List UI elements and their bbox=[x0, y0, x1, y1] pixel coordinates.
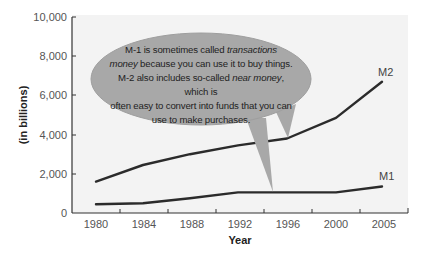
annotation-text-span: M-2 also includes so-called bbox=[118, 72, 232, 83]
x-axis: 1980 1984 1988 1992 1996 2000 2005 Year bbox=[72, 208, 408, 246]
x-tick-label: 1984 bbox=[132, 218, 156, 230]
y-axis: 0 2,000 4,000 6,000 8,000 10,000 (in bil… bbox=[17, 11, 76, 219]
x-tick-label: 1992 bbox=[228, 218, 252, 230]
annotation-text-span: because you can use it to buy things. bbox=[138, 58, 293, 69]
annotation-text: M-1 is sometimes called transactions mon… bbox=[106, 43, 296, 127]
x-tick-label: 2005 bbox=[372, 218, 396, 230]
y-tick-label: 0 bbox=[61, 207, 67, 219]
y-tick-label: 8,000 bbox=[39, 50, 67, 62]
annotation-term-transactions: transactions bbox=[227, 44, 277, 55]
x-tick-label: 1996 bbox=[276, 218, 300, 230]
series-label-m1: M1 bbox=[379, 170, 394, 182]
x-tick-label: 1980 bbox=[84, 218, 108, 230]
x-tick-label: 1988 bbox=[180, 218, 204, 230]
annotation-line: money because you can use it to buy thin… bbox=[106, 57, 296, 71]
y-axis-title: (in billions) bbox=[17, 85, 29, 144]
y-tick-label: 4,000 bbox=[39, 129, 67, 141]
annotation-line: M-2 also includes so-called near money, … bbox=[106, 71, 296, 99]
x-tick-label: 2000 bbox=[324, 218, 348, 230]
y-tick-label: 10,000 bbox=[33, 11, 67, 23]
annotation-line: M-1 is sometimes called transactions bbox=[106, 43, 296, 57]
y-tick-label: 2,000 bbox=[39, 168, 67, 180]
annotation-text-span: M-1 is sometimes called bbox=[125, 44, 227, 55]
y-tick-label: 6,000 bbox=[39, 89, 67, 101]
annotation-term-money: money bbox=[110, 58, 138, 69]
annotation-term-near-money: near money bbox=[232, 72, 281, 83]
annotation-line: often easy to convert into funds that yo… bbox=[106, 99, 296, 113]
annotation-line: use to make purchases. bbox=[106, 113, 296, 127]
x-axis-title: Year bbox=[228, 234, 252, 246]
money-supply-chart: 0 2,000 4,000 6,000 8,000 10,000 (in bil… bbox=[0, 0, 424, 259]
series-label-m2: M2 bbox=[378, 66, 393, 78]
